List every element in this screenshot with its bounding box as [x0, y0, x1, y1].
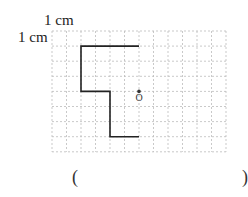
answer-open-paren: ( — [72, 168, 78, 186]
point-o-label: O — [135, 92, 142, 103]
grid-diagram: O — [0, 0, 248, 197]
answer-close-paren: ) — [242, 168, 248, 186]
